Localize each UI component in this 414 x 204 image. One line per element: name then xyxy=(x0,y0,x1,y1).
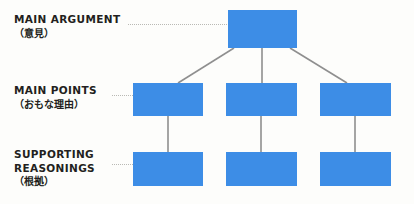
tier-label-main-argument: MAIN ARGUMENT （意見） xyxy=(14,13,120,40)
node-supporting-reasoning-1[interactable] xyxy=(133,152,203,186)
tier-label-main-argument-en: MAIN ARGUMENT xyxy=(14,13,120,27)
leader-line-main-argument xyxy=(128,24,229,26)
leader-line-main-points xyxy=(112,95,133,97)
tier-label-main-argument-ja: （意見） xyxy=(14,27,120,41)
tier-label-main-points-en: MAIN POINTS xyxy=(14,84,97,98)
node-supporting-reasoning-3[interactable] xyxy=(320,152,391,186)
tier-label-supporting-reasonings-en-line1: SUPPORTING xyxy=(14,148,95,162)
node-supporting-reasoning-2[interactable] xyxy=(226,152,297,186)
tier-label-supporting-reasonings: SUPPORTING REASONINGS （根拠） xyxy=(14,148,95,189)
node-main-point-3[interactable] xyxy=(320,83,391,116)
leader-line-supporting-reasonings xyxy=(112,164,133,166)
node-main-point-1[interactable] xyxy=(133,83,203,116)
tier-label-supporting-reasonings-ja: （根拠） xyxy=(14,175,95,189)
node-main-argument[interactable] xyxy=(228,10,297,48)
connector-argument-to-point-3 xyxy=(290,48,347,83)
tier-label-main-points-ja: （おもな理由） xyxy=(14,98,97,112)
diagram-canvas: MAIN ARGUMENT （意見） MAIN POINTS （おもな理由） S… xyxy=(0,0,414,204)
tier-label-supporting-reasonings-en-line2: REASONINGS xyxy=(14,162,95,176)
connector-argument-to-point-1 xyxy=(178,48,234,83)
node-main-point-2[interactable] xyxy=(226,83,297,116)
tier-label-main-points: MAIN POINTS （おもな理由） xyxy=(14,84,97,111)
